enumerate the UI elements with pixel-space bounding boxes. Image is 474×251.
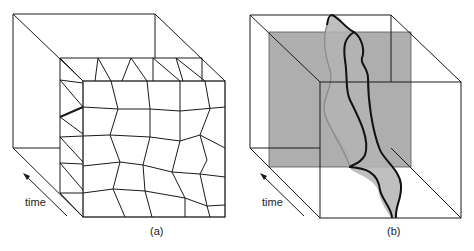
panel-a: [13, 14, 225, 217]
cube-a-depth-edge-tr: [155, 14, 225, 81]
caption-b: (b): [387, 225, 400, 237]
time-label-a: time: [25, 196, 46, 208]
mesh-front: [83, 81, 225, 217]
mesh-left: [60, 80, 83, 193]
caption-a: (a): [150, 225, 163, 237]
figure: time (a) time (b): [0, 0, 474, 251]
time-label-b: time: [262, 196, 283, 208]
panel-b: [250, 15, 461, 218]
mesh-top: [95, 58, 205, 81]
